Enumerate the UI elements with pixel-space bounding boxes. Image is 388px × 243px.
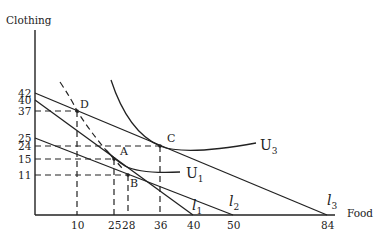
x-tick-36: 36 bbox=[154, 219, 168, 231]
label-l1: l1 bbox=[192, 197, 202, 216]
y-axis-title: Clothing bbox=[6, 14, 52, 26]
x-tick-25: 25 bbox=[108, 219, 121, 231]
point-c bbox=[158, 144, 162, 148]
point-a bbox=[112, 157, 116, 161]
x-tick-84: 84 bbox=[321, 219, 335, 231]
label-d: D bbox=[80, 98, 89, 111]
y-tick-24: 24 bbox=[18, 140, 32, 152]
x-tick-labels: 10 25 28 36 40 50 84 bbox=[71, 219, 335, 231]
diagram-svg: Clothing Food 42 40 37 25 24 15 11 10 25… bbox=[0, 0, 388, 243]
label-a: A bbox=[119, 145, 129, 158]
label-u1: U1 bbox=[186, 165, 204, 184]
label-l2: l2 bbox=[229, 193, 239, 212]
x-tick-40: 40 bbox=[187, 219, 200, 231]
indifference-curves bbox=[106, 80, 256, 172]
diagram-canvas: Clothing Food 42 40 37 25 24 15 11 10 25… bbox=[0, 0, 388, 243]
indifference-curve-u3 bbox=[111, 80, 256, 150]
budget-line-l3 bbox=[35, 93, 327, 215]
label-l3: l3 bbox=[327, 192, 337, 211]
x-tick-28: 28 bbox=[122, 219, 135, 231]
label-b: B bbox=[130, 177, 138, 190]
y-tick-15: 15 bbox=[18, 153, 31, 165]
axes bbox=[35, 30, 335, 215]
y-tick-11: 11 bbox=[18, 169, 31, 181]
label-c: C bbox=[167, 132, 175, 145]
guide-lines bbox=[35, 82, 160, 215]
y-tick-37: 37 bbox=[18, 105, 31, 117]
indifference-curve-u1 bbox=[106, 150, 180, 172]
point-d bbox=[75, 109, 79, 113]
label-u3: U3 bbox=[260, 137, 278, 156]
points bbox=[75, 109, 162, 177]
x-tick-10: 10 bbox=[71, 219, 84, 231]
x-axis-title: Food bbox=[347, 207, 373, 219]
y-tick-labels: 42 40 37 25 24 15 11 bbox=[18, 87, 32, 181]
budget-lines bbox=[35, 93, 327, 215]
x-tick-50: 50 bbox=[227, 219, 240, 231]
